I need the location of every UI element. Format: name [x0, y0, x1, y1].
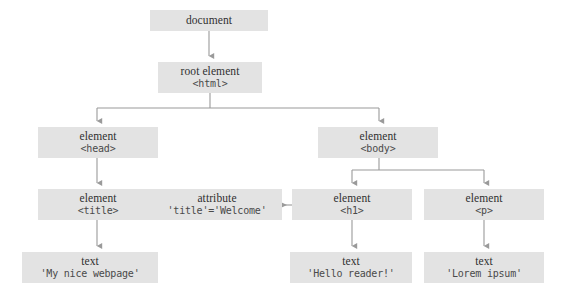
node-document-type: document [186, 14, 232, 27]
node-body-type: element [359, 130, 396, 143]
dom-tree-diagram: document root element <html> element <he… [0, 0, 563, 295]
node-element-body: element <body> [318, 127, 438, 158]
node-element-title: element <title> [38, 189, 158, 220]
node-text-h1: text 'Hello reader!' [290, 252, 412, 283]
node-body-code: <body> [361, 143, 396, 154]
node-title-type: element [79, 192, 116, 205]
node-text-h1-type: text [342, 255, 360, 268]
node-p-code: <p> [475, 205, 492, 216]
node-html-code: <html> [193, 78, 228, 89]
node-text-p-code: 'Lorem ipsum' [446, 268, 522, 279]
node-head-type: element [79, 130, 116, 143]
node-html-type: root element [181, 65, 240, 78]
node-p-type: element [465, 192, 502, 205]
node-text-h1-code: 'Hello reader!' [307, 268, 394, 279]
node-attribute: attribute 'title'='Welcome' [152, 189, 282, 220]
node-element-head: element <head> [38, 127, 158, 158]
node-h1-type: element [333, 192, 370, 205]
node-element-p: element <p> [424, 189, 544, 220]
node-text-p-type: text [475, 255, 493, 268]
node-title-code: <title> [78, 205, 119, 216]
edge-html-to-head-body [97, 93, 379, 121]
node-text-title-type: text [81, 255, 99, 268]
node-text-title: text 'My nice webpage' [22, 252, 158, 283]
node-head-code: <head> [81, 143, 116, 154]
node-text-title-code: 'My nice webpage' [41, 268, 140, 279]
node-attribute-code: 'title'='Welcome' [168, 205, 267, 216]
edge-body-to-h1-p [352, 158, 484, 183]
node-text-p: text 'Lorem ipsum' [424, 252, 544, 283]
node-element-h1: element <h1> [292, 189, 412, 220]
node-attribute-type: attribute [197, 192, 236, 205]
node-document: document [150, 10, 268, 31]
node-root-element-html: root element <html> [158, 62, 262, 93]
node-h1-code: <h1> [340, 205, 363, 216]
